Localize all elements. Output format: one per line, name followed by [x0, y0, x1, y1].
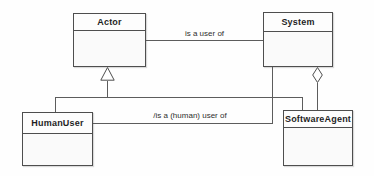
- class-box-softwareagent: SoftwareAgent: [283, 110, 353, 166]
- generalization-bus-line: [55, 97, 303, 98]
- generalization-humanuser-line: [55, 97, 56, 112]
- class-name-softwareagent: SoftwareAgent: [284, 111, 352, 128]
- generalization-stem-line: [107, 81, 108, 97]
- class-name-humanuser: HumanUser: [23, 113, 92, 134]
- class-name-system: System: [264, 13, 332, 32]
- aggregation-line: [317, 83, 318, 110]
- class-body-system: [264, 32, 332, 66]
- association-actor-system-label: is a user of: [146, 29, 263, 39]
- derived-association-horizontal-line: [93, 123, 273, 124]
- class-box-system: System: [263, 12, 333, 67]
- class-body-humanuser: [23, 134, 92, 165]
- association-actor-system-line: [146, 40, 263, 41]
- derived-association-label: /is a (human) user of: [105, 111, 275, 121]
- uml-class-diagram: Actor System HumanUser SoftwareAgent is …: [0, 0, 374, 176]
- class-body-softwareagent: [284, 128, 352, 165]
- class-box-actor: Actor: [73, 13, 146, 67]
- generalization-softwareagent-line: [302, 97, 303, 110]
- generalization-arrow-icon: [100, 67, 115, 81]
- class-body-actor: [74, 31, 145, 66]
- class-name-actor: Actor: [74, 14, 145, 31]
- aggregation-diamond-icon: [312, 67, 323, 83]
- class-box-humanuser: HumanUser: [22, 112, 93, 166]
